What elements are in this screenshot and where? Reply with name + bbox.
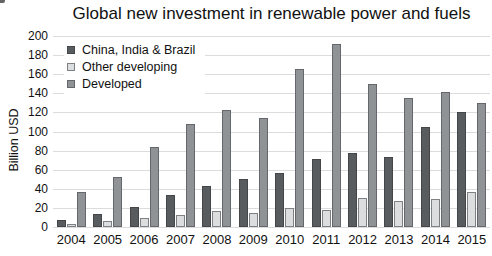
bar-2009-china-india-brazil <box>239 179 248 227</box>
y-tick-label-120: 120 <box>0 105 48 119</box>
bar-2005-other-developing <box>103 221 112 227</box>
bar-2012-china-india-brazil <box>348 153 357 227</box>
bar-2010-developed <box>295 69 304 227</box>
bar-2007-other-developing <box>176 215 185 227</box>
bar-2013-china-india-brazil <box>384 157 393 227</box>
y-tick-label-100: 100 <box>0 125 48 139</box>
bar-2015-other-developing <box>467 192 476 227</box>
legend-label-china-india-brazil: China, India & Brazil <box>82 43 195 57</box>
x-tick-label-2013: 2013 <box>381 232 417 247</box>
bar-2006-other-developing <box>140 218 149 227</box>
bar-2012-developed <box>368 84 377 227</box>
legend-swatch-icon-developed <box>67 80 75 88</box>
bar-2010-china-india-brazil <box>275 173 284 227</box>
bar-group-2009 <box>235 36 271 227</box>
x-tick-label-2015: 2015 <box>454 232 490 247</box>
y-tick-label-80: 80 <box>0 144 48 158</box>
y-tick-label-40: 40 <box>0 182 48 196</box>
bar-2014-other-developing <box>431 199 440 227</box>
bar-2005-developed <box>113 177 122 227</box>
bar-2011-developed <box>332 44 341 227</box>
bar-2014-china-india-brazil <box>421 127 430 227</box>
bar-2010-other-developing <box>285 208 294 227</box>
bar-2006-developed <box>150 147 159 227</box>
legend: China, India & BrazilOther developingDev… <box>64 39 205 95</box>
bar-2011-china-india-brazil <box>312 159 321 227</box>
chart-title: Global new investment in renewable power… <box>53 4 490 24</box>
bar-2008-developed <box>222 110 231 227</box>
y-tick-label-180: 180 <box>0 48 48 62</box>
legend-item-developed: Developed <box>67 75 195 92</box>
gridline-0 <box>53 227 490 228</box>
bar-2013-other-developing <box>394 201 403 227</box>
bar-2015-china-india-brazil <box>457 112 466 227</box>
x-axis-labels: 2004200520062007200820092010201120122013… <box>53 232 490 247</box>
bar-2007-developed <box>186 124 195 227</box>
bar-group-2013 <box>381 36 417 227</box>
bar-2006-china-india-brazil <box>130 207 139 227</box>
legend-swatch-icon-other-developing <box>67 63 75 71</box>
bar-2004-developed <box>77 192 86 227</box>
bar-group-2010 <box>272 36 308 227</box>
renewables-investment-chart: Global new investment in renewable power… <box>0 0 492 256</box>
bar-2009-other-developing <box>249 213 258 227</box>
x-tick-label-2004: 2004 <box>53 232 89 247</box>
y-tick-label-60: 60 <box>0 163 48 177</box>
legend-item-china-india-brazil: China, India & Brazil <box>67 41 195 58</box>
bar-2009-developed <box>259 118 268 227</box>
bar-2004-china-india-brazil <box>57 220 66 227</box>
y-tick-label-200: 200 <box>0 29 48 43</box>
x-tick-label-2008: 2008 <box>199 232 235 247</box>
bar-2013-developed <box>404 98 413 227</box>
x-tick-label-2010: 2010 <box>272 232 308 247</box>
bar-2012-other-developing <box>358 198 367 227</box>
x-tick-label-2014: 2014 <box>417 232 453 247</box>
bar-group-2011 <box>308 36 344 227</box>
y-tick-label-20: 20 <box>0 201 48 215</box>
y-tick-label-140: 140 <box>0 86 48 100</box>
legend-label-other-developing: Other developing <box>82 60 177 74</box>
bar-2007-china-india-brazil <box>166 195 175 227</box>
bar-2008-china-india-brazil <box>202 186 211 227</box>
bar-2011-other-developing <box>322 210 331 227</box>
bar-2008-other-developing <box>212 211 221 227</box>
x-tick-label-2007: 2007 <box>162 232 198 247</box>
bar-2015-developed <box>477 103 486 227</box>
y-tick-label-160: 160 <box>0 67 48 81</box>
bar-group-2014 <box>417 36 453 227</box>
legend-swatch-icon-china-india-brazil <box>67 46 75 54</box>
x-tick-label-2012: 2012 <box>344 232 380 247</box>
x-tick-label-2005: 2005 <box>89 232 125 247</box>
legend-item-other-developing: Other developing <box>67 58 195 75</box>
bar-2004-other-developing <box>67 224 76 227</box>
bar-2014-developed <box>441 92 450 227</box>
x-tick-label-2009: 2009 <box>235 232 271 247</box>
bar-2005-china-india-brazil <box>93 214 102 227</box>
y-tick-label-0: 0 <box>0 220 48 234</box>
bar-group-2015 <box>454 36 490 227</box>
legend-label-developed: Developed <box>82 77 142 91</box>
y-axis-ticks: 020406080100120140160180200 <box>0 0 48 256</box>
x-tick-label-2006: 2006 <box>126 232 162 247</box>
x-tick-label-2011: 2011 <box>308 232 344 247</box>
bar-group-2012 <box>344 36 380 227</box>
